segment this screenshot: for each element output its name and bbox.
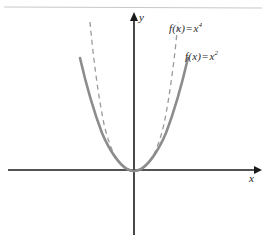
- quadratic-function-label: f(x)=x2: [185, 50, 218, 62]
- x-axis-arrowhead: [254, 166, 262, 174]
- quartic-label-exponent: 4: [199, 21, 203, 29]
- quartic-function-label: f(x)=x4: [169, 22, 202, 34]
- plot-canvas: [0, 0, 266, 246]
- function-graph-figure: f(x)=x4 f(x)=x2 y x: [0, 0, 266, 246]
- quadratic-label-exponent: 2: [215, 49, 219, 57]
- y-axis-arrowhead: [130, 12, 138, 21]
- x-axis-label: x: [249, 172, 254, 184]
- quadratic-label-arg: (x): [188, 50, 201, 62]
- quartic-label-arg: (x): [172, 22, 185, 34]
- axes-group: [8, 12, 262, 235]
- y-axis-label: y: [139, 11, 144, 23]
- top-rule: [4, 7, 262, 8]
